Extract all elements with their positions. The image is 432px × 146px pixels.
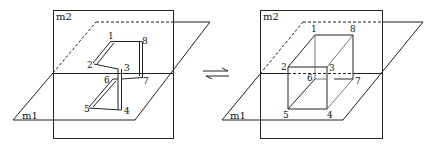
vertex-label-7-right: 7: [355, 76, 361, 86]
right-panel: m2 m1 1 2 3 4 5 6 7 8: [222, 11, 423, 139]
vertex-label-2-left: 2: [87, 60, 93, 70]
chain-left: [89, 41, 143, 110]
vertex-label-6-left: 6: [104, 75, 110, 85]
vertex-label-7-left: 7: [143, 76, 149, 86]
vertex-label-6-right: 6: [307, 73, 313, 83]
vertex-label-5-left: 5: [84, 104, 90, 114]
vertex-label-1-left: 1: [108, 31, 114, 41]
left-panel: m2 m1 1 2 3 4 5 6 7 8: [13, 11, 210, 139]
vertex-label-4-left: 4: [124, 106, 130, 116]
vertex-label-8-right: 8: [350, 24, 356, 34]
vertex-label-3-left: 3: [124, 63, 130, 73]
vertex-label-5-right: 5: [283, 110, 289, 120]
vertex-label-1-right: 1: [311, 24, 317, 34]
vertex-label-8-left: 8: [142, 36, 148, 46]
label-m2-right: m2: [263, 11, 279, 22]
vertex-label-3-right: 3: [329, 63, 335, 73]
cube-right: [288, 35, 353, 109]
diagram-svg: m2 m1 1 2 3 4 5 6 7 8: [0, 0, 432, 146]
label-m1-left: m1: [22, 110, 38, 121]
equilibrium-arrow-icon: [203, 68, 229, 79]
plane-m1-right: [222, 22, 423, 120]
vertex-label-4-right: 4: [327, 110, 333, 120]
plane-m2-left: [54, 11, 174, 139]
label-m2-left: m2: [56, 11, 72, 22]
diagram-stage: m2 m1 1 2 3 4 5 6 7 8: [0, 0, 432, 146]
vertex-label-2-right: 2: [281, 62, 287, 72]
plane-m2-right: [261, 11, 383, 139]
label-m1-right: m1: [230, 110, 246, 121]
